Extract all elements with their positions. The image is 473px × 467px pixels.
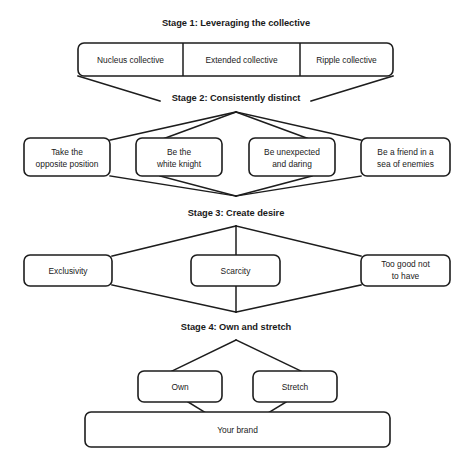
node-exclusivity-label: Exclusivity (48, 266, 88, 276)
node-take-the-opposite-position-line2: opposite position (36, 159, 99, 169)
node-be-unexpected-and-daring-line2: and daring (272, 159, 312, 169)
connector-s1-right (311, 76, 393, 101)
stage-1-heading: Stage 1: Leveraging the collective (162, 18, 310, 28)
node-nucleus-collective-label: Nucleus collective (97, 55, 164, 65)
diagram-canvas: Stage 1: Leveraging the collective Nucle… (0, 0, 473, 467)
node-your-brand-label: Your brand (217, 425, 258, 435)
stage-4-heading: Stage 4: Own and stretch (181, 322, 292, 332)
stage-4-nodes: Own Stretch Your brand (85, 371, 390, 447)
node-be-the-white-knight-line2: white knight (156, 159, 202, 169)
node-be-a-friend-in-a-sea-of-enemies[interactable] (361, 138, 450, 176)
node-stretch-label: Stretch (282, 382, 309, 392)
node-be-a-friend-in-a-sea-of-enemies-line2: sea of enemies (377, 159, 434, 169)
stage-2-heading: Stage 2: Consistently distinct (172, 93, 301, 103)
node-too-good-not-to-have-line2: to have (392, 271, 420, 281)
node-be-unexpected-and-daring-line1: Be unexpected (264, 147, 320, 157)
stage-3-heading: Stage 3: Create desire (188, 208, 285, 218)
stage-1-group: Nucleus collective Extended collective R… (78, 43, 393, 76)
connector-s3-top-to-too-good (236, 226, 361, 256)
node-scarcity-label: Scarcity (221, 266, 252, 276)
node-extended-collective-label: Extended collective (205, 55, 278, 65)
node-own-label: Own (171, 382, 189, 392)
connector-s4-top-to-stretch (236, 340, 301, 371)
node-take-the-opposite-position-line1: Take the (51, 147, 83, 157)
node-be-the-white-knight[interactable] (136, 138, 222, 176)
node-be-unexpected-and-daring[interactable] (249, 138, 335, 176)
node-be-a-friend-in-a-sea-of-enemies-line1: Be a friend in a (377, 147, 434, 157)
node-too-good-not-to-have-line1: Too good not (381, 259, 430, 269)
connector-s3-too-good-to-bottom (236, 285, 361, 312)
node-be-the-white-knight-line1: Be the (167, 147, 192, 157)
connector-s1-left (78, 76, 160, 101)
node-take-the-opposite-position[interactable] (24, 138, 110, 176)
connector-s4-top-to-own (172, 340, 236, 371)
stage-3-nodes: Exclusivity Scarcity Too good not to hav… (24, 255, 450, 286)
brand-stages-diagram: Stage 1: Leveraging the collective Nucle… (0, 0, 473, 467)
connector-s3-exclusivity-to-bottom (112, 285, 236, 312)
stage-2-nodes: Take the opposite position Be the white … (24, 138, 450, 176)
node-ripple-collective-label: Ripple collective (316, 55, 377, 65)
connector-s3-top-to-exclusivity (112, 226, 236, 256)
